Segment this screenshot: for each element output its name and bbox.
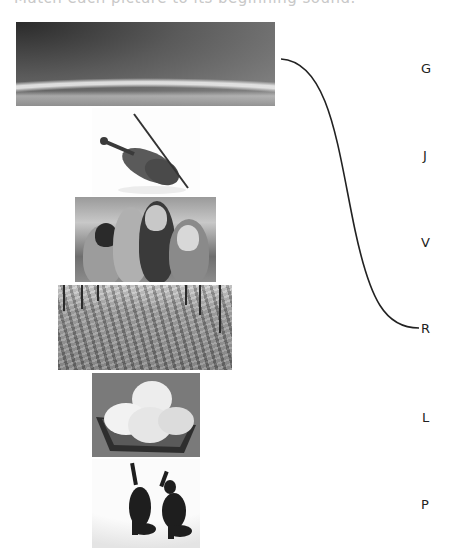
connection-line-rainbow-to-r — [0, 0, 453, 553]
